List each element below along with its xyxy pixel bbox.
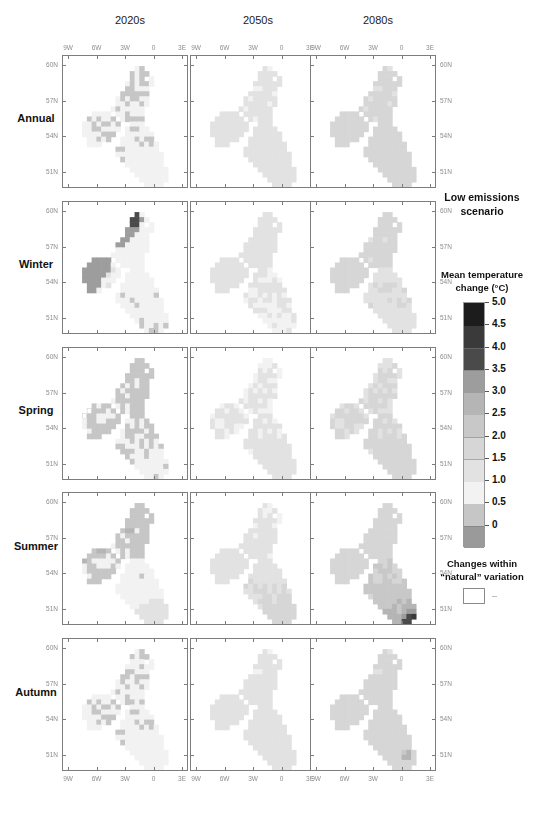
colorbar-label: 1.5 [492, 452, 506, 463]
y-tick [184, 357, 188, 358]
colorbar-tick [485, 525, 489, 526]
colorbar-tick [485, 369, 489, 370]
colorbar-tick [485, 391, 489, 392]
x-axis-label: 9W [304, 775, 328, 782]
x-tick [97, 638, 98, 642]
x-tick [282, 347, 283, 351]
y-tick [190, 247, 194, 248]
x-tick [182, 476, 183, 480]
y-tick [310, 684, 314, 685]
x-tick [182, 55, 183, 59]
y-tick [62, 609, 66, 610]
y-tick [310, 357, 314, 358]
x-tick [253, 55, 254, 59]
x-tick [316, 621, 317, 625]
x-axis-label: 3W [361, 775, 385, 782]
y-axis-label: 54N [36, 132, 58, 139]
row-label-winter: Winter [2, 258, 70, 270]
colorbar-label: 5.0 [492, 296, 506, 307]
x-axis-label: 3W [361, 44, 385, 51]
x-tick [196, 347, 197, 351]
x-tick [282, 330, 283, 334]
colorbar-band [464, 370, 484, 393]
y-axis-label: 57N [440, 97, 462, 104]
y-tick [62, 136, 66, 137]
colorbar-tick [485, 324, 489, 325]
x-tick [282, 767, 283, 771]
y-tick [62, 502, 66, 503]
y-tick [190, 573, 194, 574]
x-tick [253, 476, 254, 480]
x-tick [316, 492, 317, 496]
y-axis-label: 57N [440, 680, 462, 687]
x-tick [345, 767, 346, 771]
y-tick [432, 684, 436, 685]
x-axis-label: 6W [333, 44, 357, 51]
y-tick [184, 282, 188, 283]
row-label-summer: Summer [2, 540, 70, 552]
x-tick [182, 767, 183, 771]
y-tick [62, 357, 66, 358]
x-tick [345, 621, 346, 625]
y-tick [184, 464, 188, 465]
map-panel-summer-2020s [62, 492, 188, 625]
x-tick [316, 184, 317, 188]
y-axis-label: 54N [440, 715, 462, 722]
x-tick [430, 638, 431, 642]
y-axis-label: 54N [36, 424, 58, 431]
x-tick [154, 184, 155, 188]
x-axis-label: 6W [213, 775, 237, 782]
colorbar-band [464, 459, 484, 482]
x-tick [125, 621, 126, 625]
y-tick [62, 282, 66, 283]
x-tick [154, 621, 155, 625]
x-tick [225, 201, 226, 205]
y-axis-label: 51N [36, 605, 58, 612]
x-tick [196, 767, 197, 771]
y-axis-label: 60N [440, 498, 462, 505]
x-tick [154, 638, 155, 642]
x-tick [68, 184, 69, 188]
x-tick [182, 621, 183, 625]
y-tick [184, 247, 188, 248]
x-tick [345, 55, 346, 59]
x-tick [253, 621, 254, 625]
column-header-2080s: 2080s [318, 14, 438, 26]
y-tick [184, 502, 188, 503]
y-tick [62, 393, 66, 394]
x-tick [68, 201, 69, 205]
colorbar-label: 2.0 [492, 430, 506, 441]
y-tick [432, 318, 436, 319]
x-tick [225, 476, 226, 480]
y-tick [190, 65, 194, 66]
y-tick [190, 464, 194, 465]
colorbar-title-line1: Mean temperature [423, 268, 541, 281]
y-axis-label: 57N [440, 389, 462, 396]
colorbar-band [464, 348, 484, 371]
x-tick [430, 621, 431, 625]
colorbar-label: 1.0 [492, 474, 506, 485]
y-tick [62, 318, 66, 319]
y-tick [184, 719, 188, 720]
x-tick [97, 330, 98, 334]
y-axis-label: 54N [36, 569, 58, 576]
x-tick [182, 330, 183, 334]
x-tick [402, 638, 403, 642]
x-tick [282, 638, 283, 642]
x-tick [125, 767, 126, 771]
y-axis-label: 54N [440, 132, 462, 139]
y-axis-label: 51N [440, 460, 462, 467]
map-panel-winter-2020s [62, 201, 188, 334]
x-tick [345, 184, 346, 188]
x-tick [182, 184, 183, 188]
x-tick [225, 621, 226, 625]
x-tick [97, 347, 98, 351]
x-tick [430, 767, 431, 771]
y-tick [62, 247, 66, 248]
x-tick [154, 476, 155, 480]
y-tick [190, 318, 194, 319]
x-tick [430, 330, 431, 334]
y-axis-label: 57N [36, 389, 58, 396]
x-axis-label: 3E [418, 44, 442, 51]
y-tick [432, 648, 436, 649]
